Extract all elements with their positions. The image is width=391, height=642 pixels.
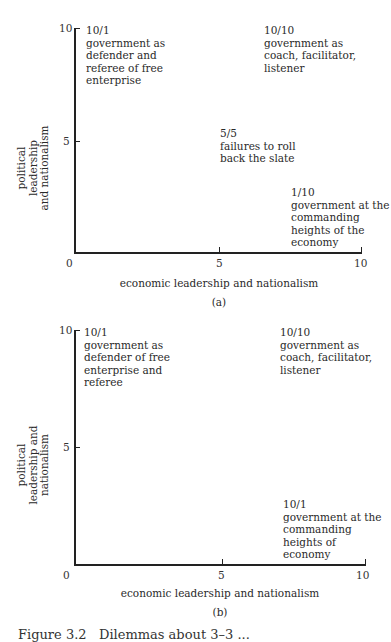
panel-a-x-tick-5 <box>219 247 220 253</box>
panel-b-y-axis-label: political leadership and nationalism <box>16 410 51 520</box>
panel-b-x-tick-label-5: 5 <box>218 569 225 581</box>
panel-a-x-tick-label-10: 10 <box>354 257 367 269</box>
panel-a-note-bottom-right: 1/10 government at the commanding height… <box>291 186 389 249</box>
panel-b-x-tick-5 <box>222 559 223 565</box>
figure-caption: Figure 3.2 Dilemmas about 3–3 ... <box>18 628 250 642</box>
panel-b-y-tick-10 <box>74 330 80 331</box>
panel-b-y-tick-label-5: 5 <box>63 441 70 453</box>
panel-b-y-tick-5 <box>76 447 80 448</box>
panel-b-x-axis-label: economic leadership and nationalism <box>74 587 366 599</box>
panel-b-y-tick-label-10: 10 <box>59 324 72 336</box>
panel-b-sublabel: (b) <box>74 606 366 618</box>
panel-b-note-top-right: 10/10 government as coach, facilitator, … <box>280 326 372 376</box>
panel-a-sublabel: (a) <box>74 296 364 308</box>
panel-b-x-tick-label-0: 0 <box>63 569 70 581</box>
panel-a-x-tick-label-5: 5 <box>216 257 223 269</box>
panel-a-y-axis-label: political leadership and nationalism <box>16 118 51 218</box>
panel-a-y-tick-label-10: 10 <box>59 22 72 34</box>
panel-a-y-tick-10 <box>74 28 80 29</box>
panel-a-note-top-right: 10/10 government as coach, facilitator, … <box>264 24 356 74</box>
panel-b-x-axis <box>74 564 366 566</box>
panel-a-x-tick-label-0: 0 <box>66 257 73 269</box>
panel-b-x-tick-label-10: 10 <box>356 569 369 581</box>
panel-b-note-top-left: 10/1 government as defender of free ente… <box>84 326 170 389</box>
panel-a-x-axis-label: economic leadership and nationalism <box>74 277 364 289</box>
panel-a-x-axis <box>74 252 362 254</box>
panel-a-y-tick-label-5: 5 <box>63 135 70 147</box>
panel-b-y-axis <box>74 330 76 566</box>
panel-a-note-center: 5/5 failures to roll back the slate <box>220 127 296 165</box>
panel-a-y-tick-5 <box>76 141 80 142</box>
panel-a-note-top-left: 10/1 government as defender and referee … <box>86 24 165 87</box>
panel-b-note-bottom-right: 10/1 government at the commanding height… <box>283 498 381 561</box>
